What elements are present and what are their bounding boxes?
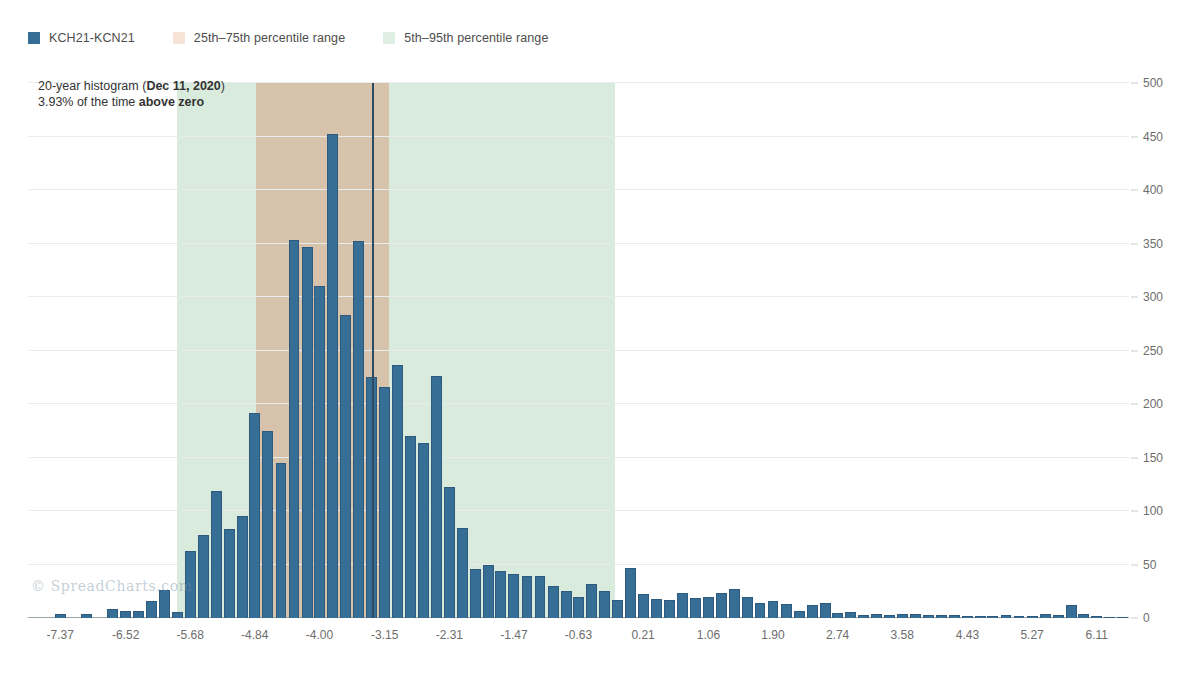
x-axis-tick-label: -2.31: [436, 628, 463, 642]
histogram-bar[interactable]: [638, 594, 649, 618]
histogram-bar[interactable]: [522, 576, 533, 618]
histogram-bar[interactable]: [133, 611, 144, 618]
histogram-bar[interactable]: [211, 491, 222, 618]
histogram-bar[interactable]: [1117, 617, 1128, 619]
histogram-bar[interactable]: [548, 586, 559, 618]
histogram-bar[interactable]: [1027, 616, 1038, 618]
legend-item-label: 5th–95th percentile range: [404, 31, 548, 45]
histogram-bar[interactable]: [573, 597, 584, 618]
histogram-bar[interactable]: [561, 591, 572, 618]
histogram-bar[interactable]: [457, 528, 468, 618]
histogram-bar[interactable]: [755, 603, 766, 618]
chart-annotation: 20-year histogram (Dec 11, 2020) 3.93% o…: [38, 78, 225, 110]
histogram-bar[interactable]: [586, 584, 597, 618]
histogram-bar[interactable]: [845, 612, 856, 618]
histogram-bar[interactable]: [314, 286, 325, 618]
histogram-bar[interactable]: [431, 376, 442, 618]
histogram-bar[interactable]: [975, 616, 986, 618]
histogram-bar[interactable]: [884, 615, 895, 618]
histogram-bar[interactable]: [703, 597, 714, 618]
histogram-bar[interactable]: [1104, 617, 1115, 619]
histogram-bar[interactable]: [340, 315, 351, 618]
x-axis-tick-label: 6.11: [1085, 628, 1107, 642]
histogram-bar[interactable]: [716, 593, 727, 618]
y-axis-tick-label: 50: [1143, 558, 1156, 572]
histogram-bar[interactable]: [237, 516, 248, 618]
histogram-bar[interactable]: [405, 436, 416, 618]
histogram-bar[interactable]: [444, 487, 455, 618]
histogram-bar[interactable]: [690, 598, 701, 618]
histogram-bar[interactable]: [612, 600, 623, 618]
histogram-bar[interactable]: [249, 413, 260, 618]
histogram-bar[interactable]: [508, 574, 519, 618]
histogram-bar[interactable]: [1040, 614, 1051, 618]
histogram-bar[interactable]: [910, 614, 921, 618]
histogram-bar[interactable]: [470, 569, 481, 618]
histogram-bar[interactable]: [172, 612, 183, 618]
legend-item-band-5-95[interactable]: 5th–95th percentile range: [383, 31, 548, 45]
histogram-bar[interactable]: [392, 365, 403, 618]
histogram-bar[interactable]: [107, 609, 118, 618]
histogram-bar[interactable]: [923, 615, 934, 618]
histogram-bar[interactable]: [185, 551, 196, 618]
histogram-bar[interactable]: [936, 615, 947, 618]
histogram-bar[interactable]: [871, 614, 882, 618]
histogram-bar[interactable]: [495, 571, 506, 618]
histogram-bar[interactable]: [1053, 615, 1064, 618]
y-axis-tick-mark: [1131, 297, 1138, 298]
histogram-bar[interactable]: [677, 593, 688, 618]
histogram-bar[interactable]: [651, 599, 662, 618]
histogram-bar[interactable]: [159, 590, 170, 618]
y-axis-tick-mark: [1131, 618, 1138, 619]
histogram-bar[interactable]: [81, 614, 92, 618]
legend-item-series-kch21-kcn21[interactable]: KCH21-KCN21: [28, 31, 135, 45]
histogram-bar[interactable]: [198, 535, 209, 618]
histogram-bar[interactable]: [1066, 605, 1077, 618]
histogram-bar[interactable]: [768, 601, 779, 618]
annotation-line-2: 3.93% of the time above zero: [38, 94, 225, 110]
x-axis-tick-label: -5.68: [177, 628, 204, 642]
histogram-bar[interactable]: [327, 134, 338, 618]
x-axis-tick-label: 0.21: [631, 628, 654, 642]
histogram-bar[interactable]: [353, 241, 364, 618]
y-axis-tick-label: 300: [1143, 290, 1163, 304]
histogram-bar[interactable]: [262, 431, 273, 618]
histogram-bar[interactable]: [302, 247, 313, 618]
histogram-bar[interactable]: [599, 591, 610, 618]
x-axis-tick-label: -4.84: [241, 628, 268, 642]
histogram-bar[interactable]: [664, 600, 675, 618]
histogram-bar[interactable]: [289, 240, 300, 618]
histogram-bar[interactable]: [55, 614, 66, 618]
histogram-bar[interactable]: [379, 387, 390, 618]
histogram-bar[interactable]: [483, 565, 494, 619]
histogram-bar[interactable]: [120, 611, 131, 618]
annotation-line-1-suffix: ): [221, 79, 225, 93]
histogram-bar[interactable]: [962, 616, 973, 618]
x-axis-tick-label: -3.15: [371, 628, 398, 642]
histogram-bar[interactable]: [729, 589, 740, 618]
histogram-bar[interactable]: [949, 615, 960, 618]
histogram-bar[interactable]: [897, 614, 908, 618]
y-axis-tick-mark: [1131, 136, 1138, 137]
histogram-bar[interactable]: [1001, 615, 1012, 618]
histogram-bar[interactable]: [832, 613, 843, 618]
histogram-bar[interactable]: [987, 616, 998, 618]
legend-swatch-icon: [383, 32, 395, 44]
histogram-bar[interactable]: [1014, 616, 1025, 618]
histogram-bar[interactable]: [781, 604, 792, 618]
histogram-bar[interactable]: [794, 611, 805, 618]
histogram-bar[interactable]: [418, 443, 429, 618]
histogram-bar[interactable]: [742, 597, 753, 618]
histogram-bar[interactable]: [535, 576, 546, 618]
histogram-bar[interactable]: [146, 601, 157, 618]
histogram-bar[interactable]: [807, 605, 818, 618]
histogram-bar[interactable]: [820, 603, 831, 618]
histogram-bar[interactable]: [224, 529, 235, 618]
histogram-bar[interactable]: [858, 615, 869, 618]
histogram-bar[interactable]: [276, 463, 287, 618]
x-axis-tick-label: -0.63: [565, 628, 592, 642]
histogram-bar[interactable]: [1078, 614, 1089, 618]
legend-item-band-25-75[interactable]: 25th–75th percentile range: [173, 31, 345, 45]
histogram-bar[interactable]: [625, 568, 636, 618]
histogram-bar[interactable]: [1091, 616, 1102, 618]
